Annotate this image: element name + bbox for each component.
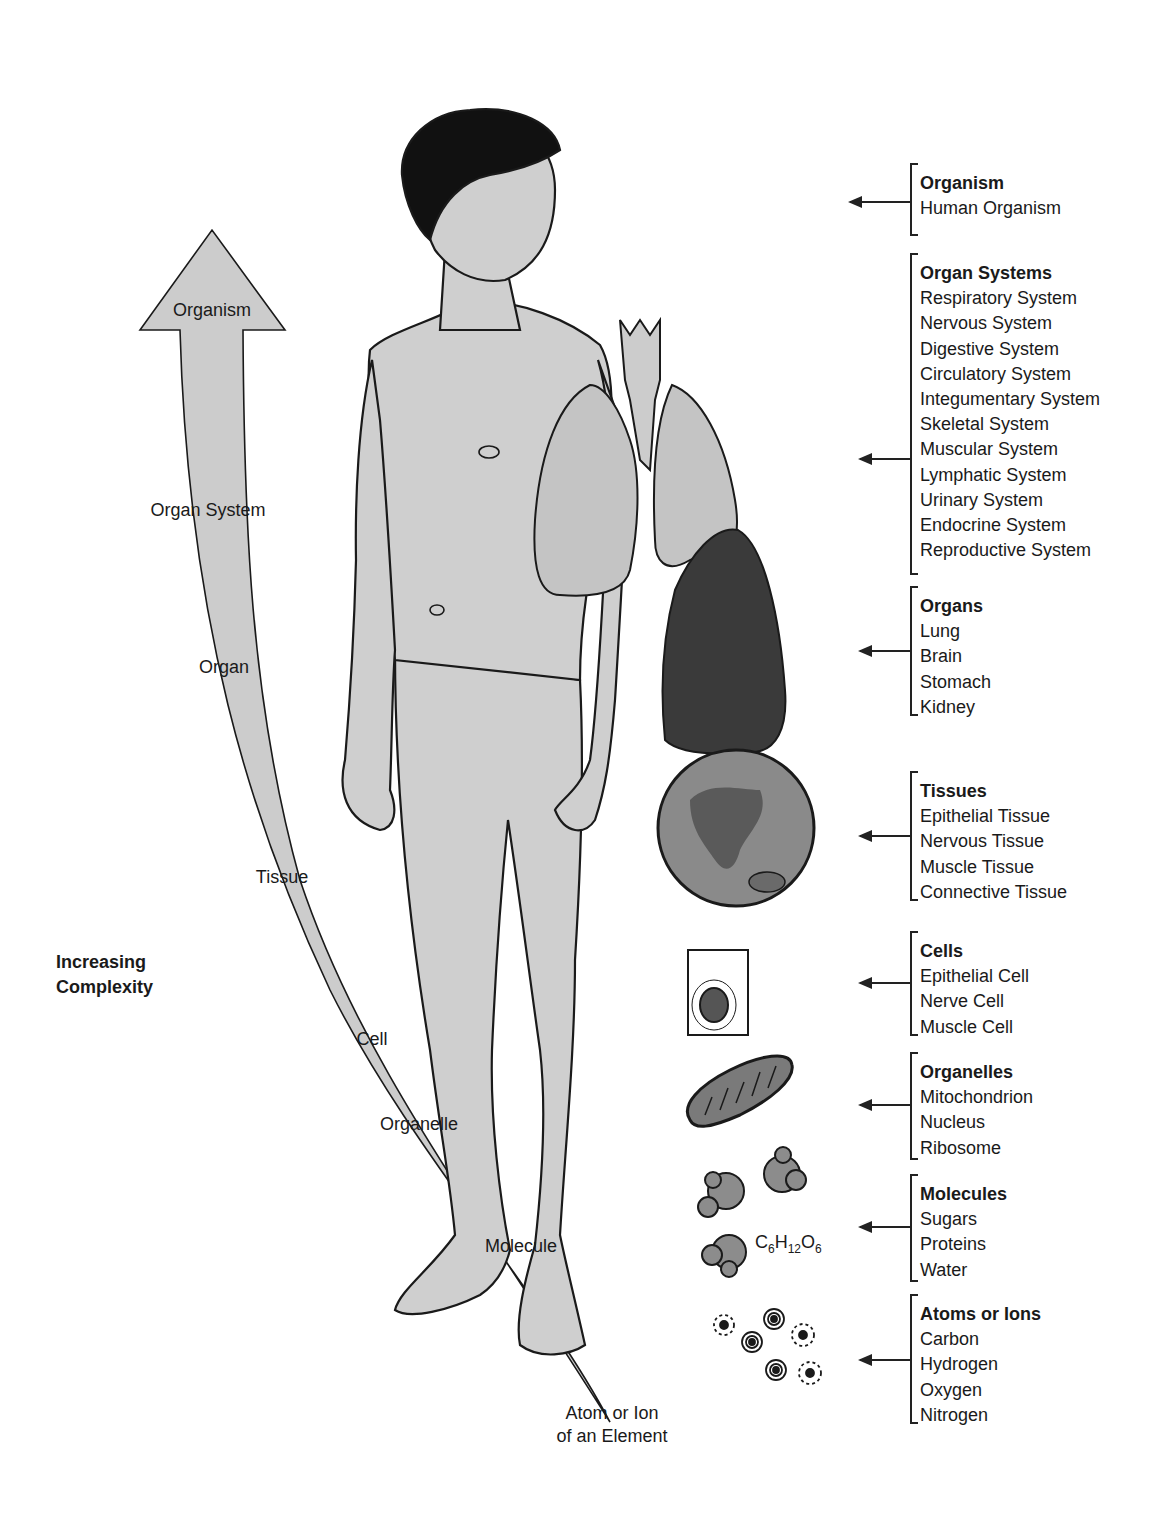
human-figure	[343, 109, 630, 1354]
level-item: Lymphatic System	[920, 463, 1100, 488]
pointer-arrow-icon	[860, 1226, 910, 1228]
arrow-label-cell: Cell	[356, 1029, 387, 1049]
increasing-complexity-label: Increasing Complexity	[56, 950, 153, 1000]
level-title: Organs	[920, 594, 991, 619]
tissue-illustration	[658, 750, 814, 906]
mitochondrion-illustration	[687, 1056, 792, 1126]
level-items: CellsEpithelial CellNerve CellMuscle Cel…	[920, 939, 1029, 1040]
pointer-arrow-icon	[850, 201, 910, 203]
bracket	[910, 771, 918, 901]
level-item: Kidney	[920, 695, 991, 720]
level-items: Atoms or IonsCarbonHydrogenOxygenNitroge…	[920, 1302, 1041, 1428]
level-items: OrganismHuman Organism	[920, 171, 1061, 221]
level-item: Urinary System	[920, 488, 1100, 513]
pointer-arrow-icon	[860, 1359, 910, 1361]
level-item: Proteins	[920, 1232, 1007, 1257]
level-item: Stomach	[920, 670, 991, 695]
level-item: Nervous Tissue	[920, 829, 1067, 854]
level-item: Human Organism	[920, 196, 1061, 221]
level-title: Tissues	[920, 779, 1067, 804]
level-item: Circulatory System	[920, 362, 1100, 387]
pointer-arrow-icon	[860, 982, 910, 984]
formula-oxygen: O	[801, 1232, 815, 1252]
level-item: Epithelial Cell	[920, 964, 1029, 989]
arrow-base-label-line1: Atom or Ion	[556, 1402, 667, 1425]
level-item: Muscle Tissue	[920, 855, 1067, 880]
level-item: Ribosome	[920, 1136, 1033, 1161]
arrow-label-organelle: Organelle	[380, 1114, 458, 1134]
level-item: Digestive System	[920, 337, 1100, 362]
arrow-label-organ: Organ	[199, 657, 249, 677]
level-item: Respiratory System	[920, 286, 1100, 311]
level-items: Organ SystemsRespiratory SystemNervous S…	[920, 261, 1100, 563]
level-title: Atoms or Ions	[920, 1302, 1041, 1327]
glucose-formula: C6H12O6	[755, 1232, 822, 1256]
level-item: Carbon	[920, 1327, 1041, 1352]
level-items: OrganellesMitochondrionNucleusRibosome	[920, 1060, 1033, 1161]
level-item: Brain	[920, 644, 991, 669]
level-title: Organelles	[920, 1060, 1033, 1085]
arrow-label-tissue: Tissue	[256, 867, 308, 887]
level-item: Mitochondrion	[920, 1085, 1033, 1110]
level-title: Cells	[920, 939, 1029, 964]
level-item: Muscular System	[920, 437, 1100, 462]
bracket	[910, 1052, 918, 1160]
level-item: Nitrogen	[920, 1403, 1041, 1428]
formula-oxygen-count: 6	[815, 1242, 822, 1256]
level-item: Skeletal System	[920, 412, 1100, 437]
level-item: Endocrine System	[920, 513, 1100, 538]
pointer-arrow-icon	[860, 458, 910, 460]
arrow-base-label: Atom or Ion of an Element	[556, 1402, 667, 1448]
atoms-illustration	[714, 1309, 821, 1384]
molecules-illustration	[698, 1147, 806, 1277]
level-item: Nucleus	[920, 1110, 1033, 1135]
bracket	[910, 163, 918, 236]
level-item: Integumentary System	[920, 387, 1100, 412]
level-item: Hydrogen	[920, 1352, 1041, 1377]
level-item: Lung	[920, 619, 991, 644]
formula-hydrogen: H	[775, 1232, 788, 1252]
arrow-label-organism: Organism	[173, 300, 251, 320]
bracket	[910, 1294, 918, 1424]
arrow-base-label-line2: of an Element	[556, 1425, 667, 1448]
formula-carbon-count: 6	[768, 1242, 775, 1256]
level-item: Nervous System	[920, 311, 1100, 336]
level-title: Organ Systems	[920, 261, 1100, 286]
formula-hydrogen-count: 12	[788, 1242, 801, 1256]
level-item: Sugars	[920, 1207, 1007, 1232]
level-item: Oxygen	[920, 1378, 1041, 1403]
level-item: Epithelial Tissue	[920, 804, 1067, 829]
level-item: Water	[920, 1258, 1007, 1283]
level-item: Connective Tissue	[920, 880, 1067, 905]
pointer-arrow-icon	[860, 650, 910, 652]
level-items: OrgansLungBrainStomachKidney	[920, 594, 991, 720]
level-item: Reproductive System	[920, 538, 1100, 563]
level-title: Molecules	[920, 1182, 1007, 1207]
level-title: Organism	[920, 171, 1061, 196]
bracket	[910, 1174, 918, 1282]
illustration	[0, 0, 1165, 1514]
arrow-label-organ-system: Organ System	[150, 500, 265, 520]
formula-carbon: C	[755, 1232, 768, 1252]
level-items: MoleculesSugarsProteinsWater	[920, 1182, 1007, 1283]
level-item: Nerve Cell	[920, 989, 1029, 1014]
pointer-arrow-icon	[860, 835, 910, 837]
arrow-label-molecule: Molecule	[485, 1236, 557, 1256]
bracket	[910, 253, 918, 575]
cell-illustration	[688, 950, 748, 1035]
bracket	[910, 931, 918, 1036]
pointer-arrow-icon	[860, 1104, 910, 1106]
level-item: Muscle Cell	[920, 1015, 1029, 1040]
increasing-complexity-line2: Complexity	[56, 975, 153, 1000]
increasing-complexity-line1: Increasing	[56, 950, 153, 975]
bracket	[910, 586, 918, 716]
level-items: TissuesEpithelial TissueNervous TissueMu…	[920, 779, 1067, 905]
